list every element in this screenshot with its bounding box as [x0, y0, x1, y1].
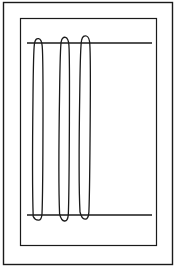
figure-canvas	[0, 0, 176, 268]
line-drawing	[0, 0, 176, 268]
figure-background	[0, 0, 176, 268]
